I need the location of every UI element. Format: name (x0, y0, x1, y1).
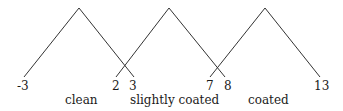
tick-label-7: 7 (206, 79, 214, 93)
slightly-coated-falling-edge (169, 8, 225, 77)
category-label-clean: clean (65, 93, 98, 107)
triangle-clean (24, 8, 134, 77)
tick-label-3: 3 (129, 79, 137, 93)
clean-falling-edge (79, 8, 134, 77)
coated-rising-edge (210, 8, 265, 77)
triangle-coated (210, 8, 320, 77)
membership-function-diagram: -3 2 3 7 8 13 clean slightly coated coat… (0, 0, 343, 111)
category-label-slightly-coated: slightly coated (130, 93, 220, 107)
tick-label-13: 13 (314, 79, 329, 93)
tick-labels: -3 2 3 7 8 13 (17, 79, 329, 93)
tick-label-2: 2 (112, 79, 120, 93)
tick-label-8: 8 (224, 79, 232, 93)
category-label-coated: coated (248, 93, 289, 107)
triangle-slightly-coated (116, 8, 225, 77)
category-labels: clean slightly coated coated (65, 93, 289, 107)
tick-label-neg3: -3 (17, 79, 29, 93)
slightly-coated-rising-edge (116, 8, 169, 77)
coated-falling-edge (265, 8, 320, 77)
clean-rising-edge (24, 8, 79, 77)
